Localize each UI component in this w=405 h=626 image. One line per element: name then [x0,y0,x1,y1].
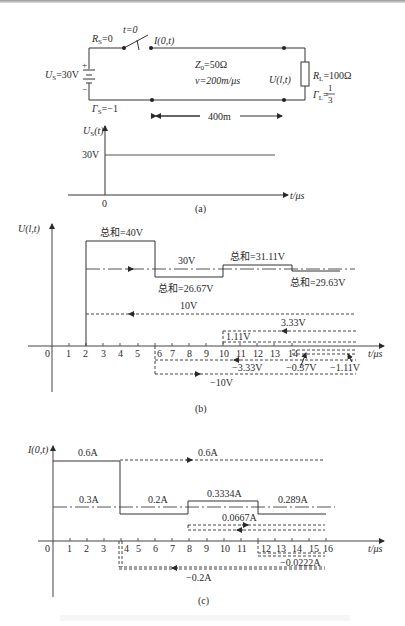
caption-b: (b) [195,403,207,415]
svg-text:2: 2 [84,543,89,554]
label-06a-right: 0.6A [198,447,219,458]
label-06a-left: 0.6A [78,447,99,458]
svg-text:0: 0 [45,348,50,359]
faded-footer-caption [60,615,350,621]
source-reflection-label: ΓS=−1 [91,103,118,116]
label-sum-3111: 总和=31.11V [230,250,286,262]
label-m111v: −1.11V [330,362,361,373]
chart-b-xlabel: t/μs [368,348,383,359]
svg-text:9: 9 [204,348,209,359]
label-m333v: −3.33V [232,362,263,373]
label-sum-2667: 总和=26.67V [158,282,214,294]
caption-a: (a) [195,203,206,215]
label-02a: 0.2A [148,494,169,505]
figure: RS=0 t=0 I(0,t) US=30V + − ΓS=−1 Z0=50Ω … [0,0,405,626]
caption-c: (c) [198,595,209,607]
circuit-nodes [122,46,286,102]
svg-text:0: 0 [45,543,50,554]
svg-text:4: 4 [118,348,123,359]
svg-text:6: 6 [157,348,162,359]
svg-text:11: 11 [236,348,246,359]
svg-text:3: 3 [328,95,333,105]
impedance-label: Z0=50Ω [195,59,227,72]
svg-text:3: 3 [101,348,106,359]
chart-a-30v-tick: 30V [82,149,100,160]
length-label: 400m [208,111,231,122]
label-m037v: −0.37V [286,362,317,373]
rs-label: RS=0 [91,33,113,46]
svg-text:12: 12 [253,348,263,359]
source-voltage-label: US=30V [45,69,80,82]
load-resistance-label: RL=100Ω [312,70,351,83]
switch-time-label: t=0 [123,24,138,35]
label-30v: 30V [178,255,196,266]
pointer-111 [348,354,352,362]
svg-text:16: 16 [323,543,333,554]
svg-text:1: 1 [67,543,72,554]
svg-text:1: 1 [328,83,333,93]
svg-text:10: 10 [220,543,230,554]
svg-text:9: 9 [204,543,209,554]
svg-text:5: 5 [135,348,140,359]
chart-b: 0 1 2 3 4 5 6 7 8 9 10 11 12 13 14 t/μs … [18,223,384,415]
svg-text:13: 13 [270,348,280,359]
label-sum-40: 总和=40V [100,226,144,238]
chart-a-ylabel: US(t) [83,125,104,138]
label-00667a: 0.0667A [222,512,258,523]
label-03334a: 0.3334A [207,488,243,499]
label-03a: 0.3A [79,494,100,505]
svg-text:14: 14 [292,543,302,554]
svg-text:3: 3 [101,543,106,554]
label-sum-2963: 总和=29.63V [290,276,346,288]
load-reflection-label: ΓL= 1 3 [312,83,335,105]
svg-text:1: 1 [66,348,71,359]
svg-text:4: 4 [124,543,129,554]
battery-minus: − [82,84,87,94]
svg-text:11: 11 [237,543,247,554]
chart-a-xlabel: t/μs [290,190,305,201]
chart-c-xlabel: t/μs [368,543,383,554]
svg-text:5: 5 [136,543,141,554]
svg-text:ΓL=: ΓL= [312,89,329,102]
label-111v: 1.11V [226,331,251,342]
svg-text:8: 8 [187,348,192,359]
chart-a: US(t) 30V 0 t/μs (a) [68,125,305,215]
label-m10v: −10V [210,377,234,388]
svg-text:7: 7 [170,543,175,554]
svg-text:2: 2 [83,348,88,359]
chart-b-tick-labels: 0 1 2 3 4 5 6 7 8 9 10 11 12 13 14 [45,348,298,359]
label-m00222a: −0.0222A [280,557,321,568]
chart-c-total-current [53,461,326,514]
load-voltage-label: U(l,t) [269,74,292,86]
label-0289a: 0.289A [278,494,309,505]
svg-text:12: 12 [261,543,271,554]
chart-c-tick-labels: 0 1 2 3 4 5 6 7 8 9 10 11 12 13 14 15 16 [45,543,333,554]
battery-plus: + [82,60,87,70]
label-10v: 10V [180,300,198,311]
svg-text:13: 13 [276,543,286,554]
chart-a-origin: 0 [102,198,107,209]
svg-text:8: 8 [187,543,192,554]
svg-text:10: 10 [219,348,229,359]
switch-icon [124,35,148,48]
chart-b-ylabel: U(l,t) [18,223,41,235]
label-m02a: −0.2A [186,572,212,583]
velocity-label: v=200m/μs [195,75,240,86]
svg-text:6: 6 [153,543,158,554]
svg-text:7: 7 [170,348,175,359]
load-resistor-icon [301,62,309,86]
chart-c: 0 1 2 3 4 5 6 7 8 9 10 11 12 13 14 15 16… [27,444,384,607]
current-label: I(0,t) [153,35,175,47]
label-333v: 3.33V [281,317,307,328]
svg-text:15: 15 [309,543,319,554]
chart-c-ylabel: I(0,t) [27,444,49,456]
